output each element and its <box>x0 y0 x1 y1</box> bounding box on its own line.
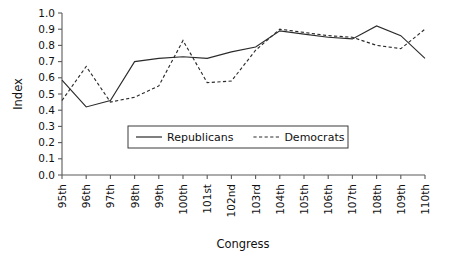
y-tick-label: 0.8 <box>38 39 55 51</box>
x-tick-label: 100th <box>177 184 189 215</box>
y-axis: 0.00.10.20.30.40.50.60.70.80.91.0 <box>38 7 62 181</box>
x-tick-label: 104th <box>274 184 286 215</box>
y-tick-label: 0.3 <box>38 120 55 132</box>
y-tick-label: 0.0 <box>38 169 55 181</box>
y-tick-label: 1.0 <box>38 7 55 19</box>
x-tick-label: 99th <box>153 184 165 208</box>
line-chart: 0.00.10.20.30.40.50.60.70.80.91.0 95th96… <box>0 0 451 256</box>
x-tick-label: 101st <box>201 184 213 214</box>
series-line-republicans <box>62 26 425 107</box>
x-tick-label: 103rd <box>250 184 262 215</box>
y-tick-label: 0.1 <box>38 152 55 164</box>
x-tick-label: 108th <box>371 184 383 215</box>
x-tick-label: 107th <box>346 184 358 215</box>
x-tick-label: 96th <box>80 184 92 208</box>
x-tick-label: 106th <box>322 184 334 215</box>
y-tick-label: 0.4 <box>38 104 55 116</box>
y-tick-label: 0.2 <box>38 136 55 148</box>
x-tick-label: 110th <box>419 184 431 215</box>
x-tick-label: 98th <box>129 184 141 208</box>
legend-label-democrats: Democrats <box>284 131 344 144</box>
x-tick-label: 95th <box>56 184 68 208</box>
chart-legend: RepublicansDemocrats <box>128 126 348 148</box>
x-tick-label: 102nd <box>225 184 237 217</box>
x-axis-title: Congress <box>216 237 269 251</box>
chart-figure: 0.00.10.20.30.40.50.60.70.80.91.0 95th96… <box>0 0 451 256</box>
y-axis-title: Index <box>11 78 25 110</box>
y-tick-label: 0.5 <box>38 88 55 100</box>
legend-label-republicans: Republicans <box>167 131 234 144</box>
x-axis: 95th96th97th98th99th100th101st102nd103rd… <box>56 175 431 217</box>
data-series-group <box>62 26 425 107</box>
y-tick-label: 0.6 <box>38 71 55 83</box>
x-tick-label: 97th <box>104 184 116 208</box>
y-tick-label: 0.9 <box>38 23 55 35</box>
y-tick-label: 0.7 <box>38 55 55 67</box>
x-tick-label: 109th <box>395 184 407 215</box>
x-tick-label: 105th <box>298 184 310 215</box>
